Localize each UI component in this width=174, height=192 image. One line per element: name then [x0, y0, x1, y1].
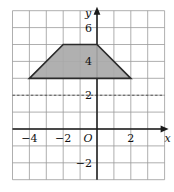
y-tick-label: 2: [85, 89, 92, 102]
x-tick-label: 2: [127, 132, 134, 145]
y-tick-label: 4: [85, 55, 92, 68]
x-tick-label: −2: [55, 132, 71, 145]
y-axis-name-label: y: [84, 7, 92, 20]
y-tick-label: 6: [85, 22, 92, 35]
y-tick-label: −2: [76, 157, 92, 170]
origin-label: O: [83, 132, 92, 145]
coordinate-plane-graph: −4−22642−2xyO: [0, 0, 174, 192]
x-axis-name-label: x: [164, 132, 171, 145]
figure-canvas: −4−22642−2xyO: [0, 0, 174, 192]
x-tick-label: −4: [21, 132, 37, 145]
